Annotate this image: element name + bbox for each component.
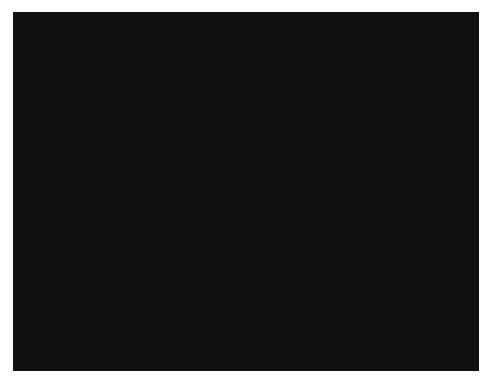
image-canvas: Close-up grayscale photograph of a plain… xyxy=(0,0,493,386)
weave-fallback-layer xyxy=(13,12,479,371)
woven-textile-photograph xyxy=(13,12,479,371)
